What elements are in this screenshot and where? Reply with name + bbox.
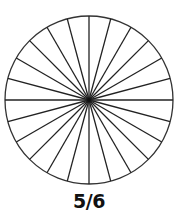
fraction-label: 5/6 bbox=[0, 190, 178, 212]
fraction-circle-diagram bbox=[0, 0, 182, 190]
center-point bbox=[87, 98, 91, 102]
